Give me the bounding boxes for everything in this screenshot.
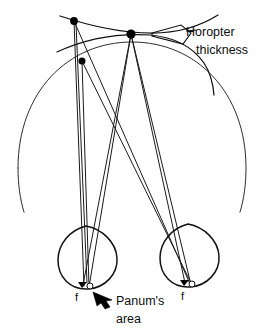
ray-secondary-left-a [89,34,131,287]
right-panum-circle [189,281,195,287]
right-fovea-label: f [181,290,185,302]
fixation-point [126,29,135,38]
mid-left-target-point [79,58,86,65]
ray-fixation-to-left-fovea [83,34,131,285]
vieth-muller-circle-arc-left-tail [18,168,24,212]
left-fovea-label: f [75,291,79,303]
right-fovea-marker [180,280,189,286]
left-fovea-marker [78,282,87,288]
left-panum-circle [87,283,93,289]
horopter-figure: Horopter thickness Panum's area f f [0,0,271,329]
panum-area-label-line1: Panum's [116,294,164,308]
ray-fixation-to-right-fovea [131,34,185,283]
vieth-muller-circle-arc [18,42,246,212]
upper-left-target-point [70,17,78,25]
horopter-diagram-canvas: Horopter thickness Panum's area f f [0,0,271,329]
horopter-thickness-label-line1: Horopter [186,25,235,39]
horopter-inner-arc [57,35,214,95]
panum-area-label-line2: area [116,312,141,326]
panum-pointer-arrow [93,292,112,309]
ray-mid-left-to-right-eye [82,61,192,285]
horopter-thickness-label-line2: thickness [196,43,248,57]
